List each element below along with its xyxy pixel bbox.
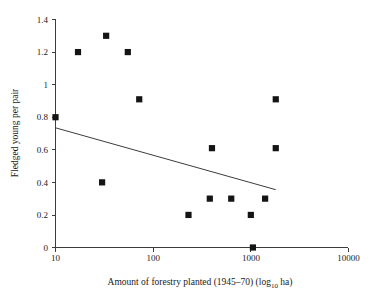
data-point bbox=[52, 114, 58, 120]
y-tick-label-0.8: 0.8 bbox=[37, 112, 49, 122]
regression-trend-line bbox=[56, 128, 276, 190]
x-axis-ticks bbox=[56, 248, 349, 252]
data-point bbox=[103, 33, 109, 39]
y-axis-tick-labels: 1.4 1.2 1 0.8 0.6 0.4 0.2 0 bbox=[37, 15, 49, 253]
y-tick-label-1.2: 1.2 bbox=[37, 47, 48, 57]
y-tick-label-1.4: 1.4 bbox=[37, 15, 49, 25]
y-tick-label-0.6: 0.6 bbox=[37, 145, 49, 155]
data-point bbox=[250, 244, 256, 250]
data-point bbox=[273, 96, 279, 102]
data-points-layer bbox=[52, 33, 278, 251]
data-point bbox=[262, 196, 268, 202]
y-axis-ticks bbox=[52, 20, 56, 248]
y-axis-title: Fledged young per pair bbox=[10, 88, 20, 177]
chart-canvas: 1.4 1.2 1 0.8 0.6 0.4 0.2 0 10 100 1000 … bbox=[0, 0, 374, 302]
y-tick-label-1: 1 bbox=[44, 80, 49, 90]
data-point bbox=[125, 49, 131, 55]
x-tick-label-10000: 10000 bbox=[337, 253, 360, 263]
x-tick-label-10: 10 bbox=[51, 253, 61, 263]
data-point bbox=[207, 196, 213, 202]
scatter-chart-figure: 1.4 1.2 1 0.8 0.6 0.4 0.2 0 10 100 1000 … bbox=[0, 0, 374, 302]
data-point bbox=[99, 179, 105, 185]
x-axis-tick-labels: 10 100 1000 10000 bbox=[51, 253, 360, 263]
data-point bbox=[185, 212, 191, 218]
x-tick-label-100: 100 bbox=[146, 253, 160, 263]
y-tick-label-0.4: 0.4 bbox=[37, 178, 49, 188]
data-point bbox=[209, 145, 215, 151]
y-tick-label-0: 0 bbox=[44, 243, 49, 253]
x-axis-title: Amount of forestry planted (1945–70) (lo… bbox=[108, 277, 293, 290]
x-axis-title-main-after: ha) bbox=[278, 277, 293, 288]
data-point bbox=[228, 196, 234, 202]
data-point bbox=[273, 145, 279, 151]
data-point bbox=[75, 49, 81, 55]
y-tick-label-0.2: 0.2 bbox=[37, 210, 48, 220]
data-point bbox=[136, 96, 142, 102]
data-point bbox=[248, 212, 254, 218]
x-axis-title-main-before: Amount of forestry planted (1945–70) (lo… bbox=[108, 277, 272, 288]
x-tick-label-1000: 1000 bbox=[242, 253, 261, 263]
